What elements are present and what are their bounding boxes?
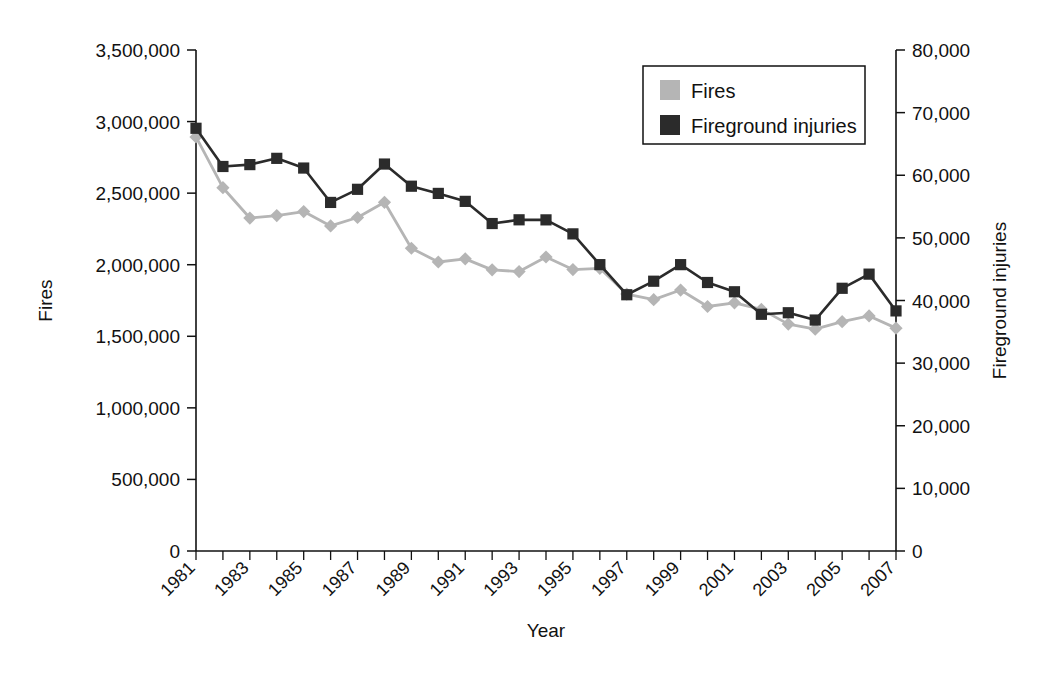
- right-axis-title: Fireground injuries: [989, 222, 1010, 379]
- x-axis-title: Year: [527, 620, 566, 641]
- data-point-fireground-injuries: [648, 276, 659, 287]
- data-point-fires: [701, 300, 714, 313]
- x-axis-tick-label: 2007: [856, 558, 898, 600]
- x-axis-tick-label: 1987: [318, 558, 360, 600]
- data-point-fireground-injuries: [621, 289, 632, 300]
- data-point-fireground-injuries: [837, 283, 848, 294]
- right-axis-tick-label: 20,000: [912, 416, 970, 437]
- data-point-fireground-injuries: [810, 314, 821, 325]
- x-axis-tick-label: 2005: [803, 558, 845, 600]
- data-point-fires: [782, 318, 795, 331]
- data-point-fires: [486, 263, 499, 276]
- data-point-fires: [862, 309, 875, 322]
- left-axis-tick-label: 500,000: [111, 469, 180, 490]
- data-point-fires: [889, 322, 902, 335]
- data-point-fires: [647, 293, 660, 306]
- data-point-fires: [836, 315, 849, 328]
- chart-container: 0500,0001,000,0001,500,0002,000,0002,500…: [0, 0, 1046, 684]
- x-axis-tick-label: 1997: [587, 558, 629, 600]
- x-axis-tick-label: 1993: [479, 558, 521, 600]
- x-axis-tick-label: 1995: [533, 558, 575, 600]
- data-point-fireground-injuries: [352, 184, 363, 195]
- data-point-fireground-injuries: [513, 214, 524, 225]
- dual-axis-line-chart: 0500,0001,000,0001,500,0002,000,0002,500…: [0, 0, 1046, 684]
- data-point-fireground-injuries: [460, 196, 471, 207]
- data-point-fires: [432, 255, 445, 268]
- data-point-fireground-injuries: [756, 309, 767, 320]
- right-axis-tick-label: 0: [912, 541, 923, 562]
- left-axis-tick-label: 1,000,000: [95, 398, 180, 419]
- right-axis-tick-label: 70,000: [912, 103, 970, 124]
- legend-swatch-fires: [660, 80, 680, 100]
- data-point-fireground-injuries: [729, 286, 740, 297]
- data-point-fireground-injuries: [433, 188, 444, 199]
- data-point-fireground-injuries: [594, 259, 605, 270]
- data-point-fires: [270, 209, 283, 222]
- data-point-fires: [378, 196, 391, 209]
- data-point-fires: [459, 252, 472, 265]
- data-point-fireground-injuries: [217, 161, 228, 172]
- left-axis-title: Fires: [35, 279, 56, 321]
- legend-label-fireground-injuries: Fireground injuries: [691, 115, 857, 137]
- data-point-fireground-injuries: [783, 307, 794, 318]
- data-point-fireground-injuries: [675, 259, 686, 270]
- data-point-fireground-injuries: [863, 269, 874, 280]
- data-point-fireground-injuries: [406, 181, 417, 192]
- x-axis-tick-label: 1983: [210, 558, 252, 600]
- data-point-fires: [324, 219, 337, 232]
- data-point-fires: [351, 211, 364, 224]
- right-axis-tick-label: 10,000: [912, 478, 970, 499]
- data-point-fireground-injuries: [702, 277, 713, 288]
- data-point-fireground-injuries: [325, 197, 336, 208]
- data-point-fireground-injuries: [540, 214, 551, 225]
- right-axis-tick-label: 60,000: [912, 165, 970, 186]
- x-axis-tick-label: 1999: [641, 558, 683, 600]
- x-axis-tick-label: 1989: [372, 558, 414, 600]
- left-axis-tick-label: 2,000,000: [95, 255, 180, 276]
- x-axis-tick-label: 2001: [695, 558, 737, 600]
- legend-swatch-fireground-injuries: [660, 115, 680, 135]
- data-point-fires: [539, 250, 552, 263]
- data-point-fires: [297, 205, 310, 218]
- left-axis-tick-label: 3,000,000: [95, 112, 180, 133]
- data-point-fires: [405, 242, 418, 255]
- right-axis-tick-label: 40,000: [912, 291, 970, 312]
- data-point-fires: [674, 283, 687, 296]
- data-point-fireground-injuries: [244, 159, 255, 170]
- right-axis-tick-label: 50,000: [912, 228, 970, 249]
- right-axis-tick-label: 30,000: [912, 353, 970, 374]
- x-axis-tick-label: 2003: [749, 558, 791, 600]
- left-axis-tick-label: 3,500,000: [95, 40, 180, 61]
- data-point-fires: [512, 265, 525, 278]
- data-point-fireground-injuries: [298, 162, 309, 173]
- data-point-fireground-injuries: [890, 305, 901, 316]
- data-point-fireground-injuries: [567, 228, 578, 239]
- x-axis-tick-label: 1981: [156, 558, 198, 600]
- left-axis-tick-label: 2,500,000: [95, 183, 180, 204]
- left-axis-tick-label: 0: [169, 541, 180, 562]
- data-point-fireground-injuries: [487, 218, 498, 229]
- data-point-fires: [728, 296, 741, 309]
- left-axis-tick-label: 1,500,000: [95, 326, 180, 347]
- data-point-fireground-injuries: [379, 158, 390, 169]
- legend-label-fires: Fires: [691, 80, 735, 102]
- right-axis-tick-label: 80,000: [912, 40, 970, 61]
- x-axis-tick-label: 1985: [264, 558, 306, 600]
- x-axis-tick-label: 1991: [426, 558, 468, 600]
- data-point-fires: [566, 263, 579, 276]
- data-point-fireground-injuries: [271, 153, 282, 164]
- data-point-fireground-injuries: [190, 123, 201, 134]
